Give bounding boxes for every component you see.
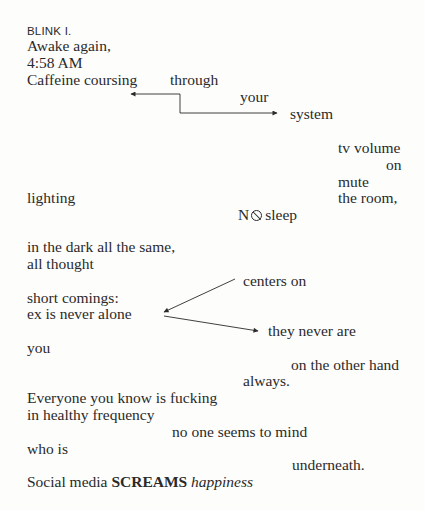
poem-title: BLINK I. xyxy=(27,25,71,37)
happiness-text: happiness xyxy=(191,473,253,490)
line-everyone: Everyone you know is fucking xyxy=(27,389,217,406)
line-no-sleep: Nsleep xyxy=(238,206,297,223)
line-always: always. xyxy=(243,372,290,389)
line-mute: mute xyxy=(338,173,369,190)
line-your: your xyxy=(240,88,268,105)
line-short-comings: short comings: xyxy=(27,289,119,306)
line-the-room: the room, xyxy=(338,189,397,206)
centers-on-arrow-icon xyxy=(164,279,235,312)
line-caffeine: Caffeine coursing xyxy=(27,71,137,88)
line-healthy: in healthy frequency xyxy=(27,406,154,423)
line-tv-volume: tv volume xyxy=(338,139,400,156)
line-social-media: Social media SCREAMS happiness xyxy=(27,473,253,490)
they-never-arrow-icon xyxy=(164,316,258,331)
line-time: 4:58 AM xyxy=(27,54,83,71)
line-you: you xyxy=(27,339,50,356)
poem-page: BLINK I. Awake again, 4:58 AM Caffeine c… xyxy=(0,0,425,510)
line-no-one: no one seems to mind xyxy=(172,423,307,440)
line-on: on xyxy=(386,156,402,173)
line-other-hand: on the other hand xyxy=(291,356,399,373)
screams-text: SCREAMS xyxy=(111,473,187,490)
line-they-never: they never are xyxy=(268,322,356,339)
line-system: system xyxy=(290,105,333,122)
line-all-thought: all thought xyxy=(27,255,94,272)
line-centers-on: centers on xyxy=(243,272,306,289)
no-sleep-prefix: N xyxy=(238,206,249,223)
no-sleep-suffix: sleep xyxy=(265,206,297,223)
social-media-text: Social media xyxy=(27,473,111,490)
line-awake: Awake again, xyxy=(27,37,111,54)
line-ex-alone: ex is never alone xyxy=(27,305,132,322)
line-who-is: who is xyxy=(27,440,68,457)
line-underneath: underneath. xyxy=(292,456,365,473)
prohibition-sign-icon xyxy=(251,210,262,221)
line-lighting: lighting xyxy=(27,189,75,206)
line-through: through xyxy=(170,71,218,88)
line-in-the-dark: in the dark all the same, xyxy=(27,238,175,255)
